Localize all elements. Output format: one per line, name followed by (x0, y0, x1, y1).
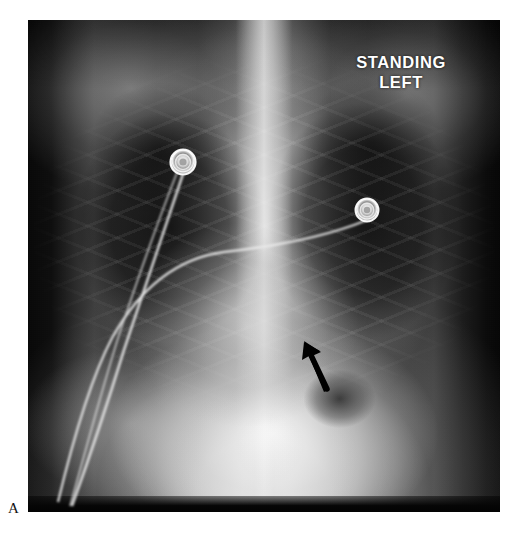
free-air-arrow-icon (302, 341, 328, 392)
figure-panel: STANDING LEFT A (0, 0, 522, 543)
marker-line-standing: STANDING (346, 52, 456, 72)
ecg-electrode-right (171, 150, 196, 175)
position-marker-text: STANDING LEFT (346, 52, 456, 92)
xray-overlay (28, 20, 500, 512)
ecg-lead-wires (58, 170, 367, 506)
chest-radiograph-image: STANDING LEFT (28, 20, 500, 512)
lead-wire-1 (72, 174, 183, 506)
lead-wire-3 (70, 170, 178, 506)
panel-label-a: A (8, 500, 19, 517)
ecg-electrode-left (356, 199, 379, 222)
lead-wire-2 (58, 220, 367, 502)
marker-line-left: LEFT (346, 72, 456, 92)
